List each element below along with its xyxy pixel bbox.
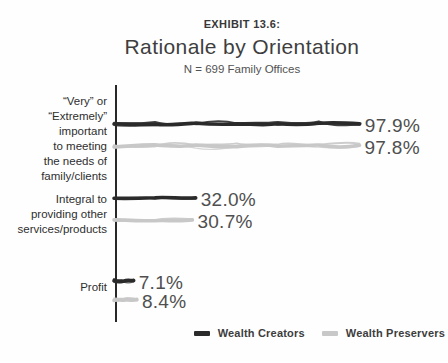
legend-label: Wealth Creators bbox=[218, 327, 305, 339]
value-label-wealth-creators-1: 32.0% bbox=[201, 189, 256, 210]
value-label-wealth-creators-0: 97.9% bbox=[365, 115, 420, 136]
value-label-wealth-preservers-1: 30.7% bbox=[197, 211, 252, 232]
value-label-wealth-preservers-2: 8.4% bbox=[142, 291, 187, 312]
legend-item-wealth-preservers: Wealth Preservers bbox=[322, 327, 445, 339]
wealth-preservers-swatch-icon bbox=[322, 331, 338, 336]
legend-item-wealth-creators: Wealth Creators bbox=[194, 327, 305, 339]
value-label-wealth-creators-2: 7.1% bbox=[139, 272, 184, 293]
legend-label: Wealth Preservers bbox=[346, 327, 445, 339]
value-label-wealth-preservers-0: 97.8% bbox=[365, 137, 420, 158]
wealth-creators-swatch-icon bbox=[194, 331, 210, 336]
legend: Wealth Creators Wealth Preservers bbox=[194, 327, 445, 339]
exhibit-chart-page: EXHIBIT 13.6: Rationale by Orientation N… bbox=[0, 0, 448, 363]
bar-chart: 97.9%32.0%7.1%97.8%30.7%8.4% bbox=[0, 0, 448, 363]
bar-wealth-preservers-2 bbox=[114, 298, 137, 299]
